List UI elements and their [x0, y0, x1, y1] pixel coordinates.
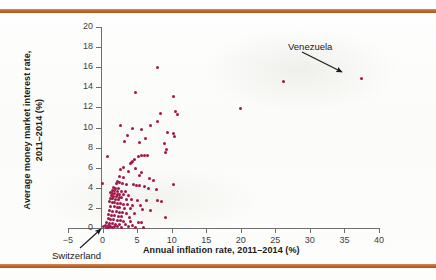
- arrow-venezuela: [302, 52, 342, 72]
- y-tick-label: 16: [71, 61, 93, 71]
- x-tick-label: 15: [194, 235, 218, 245]
- y-tick-label: 12: [71, 101, 93, 111]
- y-tick-label: 14: [71, 81, 93, 91]
- x-tick-label: 5: [125, 235, 149, 245]
- y-tick-label: 8: [71, 142, 93, 152]
- y-tick-label: 2: [71, 202, 93, 212]
- x-tick-label: 20: [229, 235, 253, 245]
- x-tick-label: 0: [91, 235, 115, 245]
- y-tick-label: 6: [71, 162, 93, 172]
- y-tick-label: 10: [71, 122, 93, 132]
- figure-page: Annual inflation rate, 2011–2014 (%) Ave…: [0, 0, 436, 280]
- x-tick-label: 40: [367, 235, 391, 245]
- x-tick-label: 10: [160, 235, 184, 245]
- x-tick-label: 25: [263, 235, 287, 245]
- x-tick-label: 30: [298, 235, 322, 245]
- x-tick-label: −5: [56, 235, 80, 245]
- y-tick-label: 0: [71, 222, 93, 232]
- y-tick-label: 20: [71, 21, 93, 31]
- y-tick-label: 4: [71, 182, 93, 192]
- y-tick-label: 18: [71, 41, 93, 51]
- x-tick-label: 35: [332, 235, 356, 245]
